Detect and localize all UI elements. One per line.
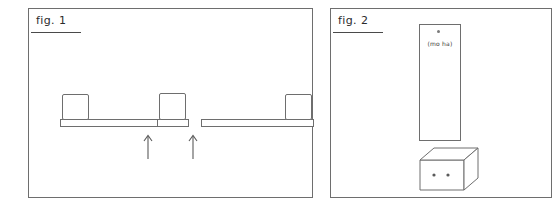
tall-panel-note: (mo ha) (419, 40, 461, 47)
figure-label-underline-fig2 (333, 32, 383, 33)
drawing-canvas: fig. 1 fig. 2 (mo ha) (0, 0, 556, 209)
arrow-up-icon-right (186, 133, 200, 159)
shelf-bar-middle (157, 119, 189, 127)
shelf-box-middle (159, 93, 186, 120)
figure-label-fig1: fig. 1 (36, 14, 66, 27)
shelf-box-right (285, 94, 312, 120)
figure-label-underline-fig1 (31, 32, 81, 33)
arrow-up-icon-left (141, 133, 155, 159)
dot-icon-tall-panel (437, 30, 440, 33)
shelf-box-left (62, 94, 89, 120)
figure-label-fig2: fig. 2 (338, 14, 368, 27)
base-box (398, 138, 490, 194)
shelf-bar-right (201, 119, 314, 127)
